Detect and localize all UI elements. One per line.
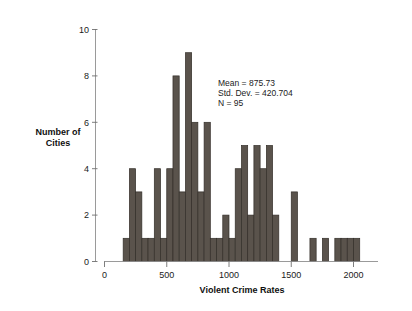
histogram-bar [179, 192, 185, 262]
x-tick-label: 1500 [281, 270, 301, 280]
histogram-bar [204, 122, 210, 261]
histogram-bar [161, 238, 167, 261]
histogram-bar [341, 238, 347, 261]
histogram-bar [129, 169, 135, 262]
histogram-bar [142, 238, 148, 261]
histogram-bar [154, 169, 160, 262]
histogram-bar [322, 238, 328, 261]
y-tick-label: 8 [84, 71, 89, 81]
histogram-chart: 0500100015002000 0246810 Violent Crime R… [0, 0, 412, 311]
histogram-bar [210, 238, 216, 261]
histogram-bar [241, 146, 247, 262]
histogram-bar [254, 146, 260, 262]
histogram-bar [291, 192, 297, 262]
x-tick-label: 2000 [343, 270, 363, 280]
histogram-bar [273, 215, 279, 261]
histogram-bar [260, 169, 266, 262]
plot-canvas: 0500100015002000 0246810 Violent Crime R… [0, 0, 412, 311]
histogram-bar [198, 192, 204, 262]
histogram-bar [167, 169, 173, 262]
histogram-bar [347, 238, 353, 261]
histogram-bar [266, 146, 272, 262]
histogram-bar [136, 192, 142, 262]
histogram-bar [185, 53, 191, 262]
x-tick-label: 500 [159, 270, 174, 280]
stat-stddev: Std. Dev. = 420.704 [218, 88, 293, 98]
histogram-bar [354, 238, 360, 261]
x-axis-ticks: 0500100015002000 [102, 262, 364, 281]
y-tick-label: 0 [84, 257, 89, 267]
x-axis-title: Violent Crime Rates [200, 285, 285, 295]
y-tick-label: 10 [79, 25, 89, 35]
y-tick-label: 2 [84, 210, 89, 220]
histogram-bar [148, 238, 154, 261]
y-tick-label: 6 [84, 118, 89, 128]
histogram-bar [173, 76, 179, 262]
histogram-bar [123, 238, 129, 261]
histogram-bar [229, 238, 235, 261]
stat-n: N = 95 [218, 98, 244, 108]
y-axis-title-line2: Cities [46, 138, 71, 148]
histogram-bar [217, 238, 223, 261]
histogram-bar [248, 215, 254, 261]
x-tick-label: 0 [102, 270, 107, 280]
histogram-bar [223, 215, 229, 261]
histogram-bar [335, 238, 341, 261]
histogram-bar [235, 169, 241, 262]
x-tick-label: 1000 [219, 270, 239, 280]
y-tick-label: 4 [84, 164, 89, 174]
histogram-bar [192, 122, 198, 261]
y-axis-title-line1: Number of [36, 127, 82, 137]
stat-mean: Mean = 875.73 [218, 78, 275, 88]
histogram-bar [310, 238, 316, 261]
y-axis-ticks: 0246810 [79, 25, 98, 267]
